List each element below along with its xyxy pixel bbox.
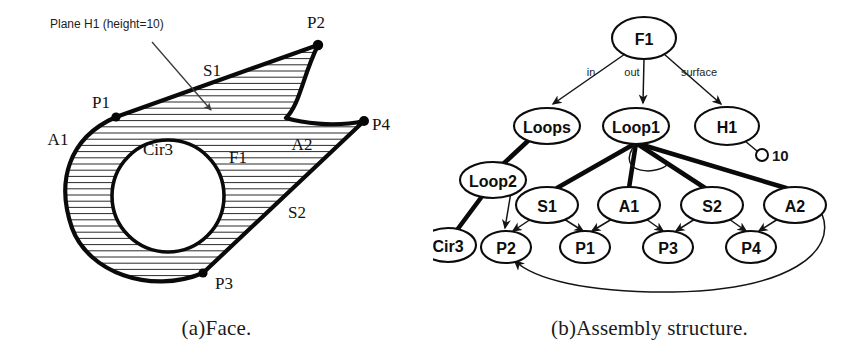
node-label: H1 bbox=[717, 119, 738, 136]
edge-loop1-s2 bbox=[636, 143, 705, 188]
assembly-node-f1[interactable]: F1 bbox=[612, 17, 676, 59]
assembly-node-h1[interactable]: H1 bbox=[695, 107, 759, 145]
vertex-p3 bbox=[198, 268, 207, 277]
assembly-node-a2[interactable]: A2 bbox=[764, 187, 826, 223]
edge-loops-loop2 bbox=[501, 139, 530, 166]
assembly-node-loop2[interactable]: Loop2 bbox=[460, 162, 526, 198]
vertex-p2 bbox=[313, 40, 323, 50]
assembly-node-cir3[interactable]: Cir3 bbox=[433, 228, 476, 262]
node-label: Loop1 bbox=[612, 119, 660, 136]
panel-face: Plane H1 (height=10) P1 P2 P3 P4 A1 A2 S… bbox=[0, 0, 433, 355]
vertex-p1 bbox=[111, 112, 120, 121]
node-label: Loops bbox=[523, 119, 571, 136]
node-label: P2 bbox=[496, 240, 516, 257]
edge-s2-p4 bbox=[729, 219, 746, 231]
assembly-node-p1[interactable]: P1 bbox=[560, 231, 610, 263]
label-a2: A2 bbox=[292, 135, 313, 154]
label-p3: P3 bbox=[215, 274, 233, 293]
label-a1: A1 bbox=[48, 130, 69, 149]
edge-f1-loops bbox=[553, 54, 625, 104]
edge-a2-p4 bbox=[759, 219, 778, 231]
node-label: A2 bbox=[785, 198, 806, 215]
edge-loop2-cir3 bbox=[457, 195, 483, 230]
node-label: A1 bbox=[619, 198, 640, 215]
edge-h1-height bbox=[745, 141, 757, 151]
node-label: P4 bbox=[741, 240, 761, 257]
assembly-node-loops[interactable]: Loops bbox=[514, 108, 580, 144]
assembly-node-s2[interactable]: S2 bbox=[681, 187, 743, 223]
vertex-p4 bbox=[359, 116, 369, 126]
label-p2: P2 bbox=[307, 13, 325, 32]
assembly-diagram: 10 in out surface F1LoopsLoop1H1Loop2S1A… bbox=[433, 0, 866, 320]
assembly-node-loop1[interactable]: Loop1 bbox=[603, 108, 669, 144]
node-label: S1 bbox=[537, 198, 557, 215]
edge-f1-h1 bbox=[664, 54, 721, 104]
caption-face: (a)Face. bbox=[0, 316, 433, 341]
edge-loop1-s1 bbox=[557, 143, 636, 188]
edge-s1-p2 bbox=[513, 219, 531, 231]
label-cir3: Cir3 bbox=[143, 140, 173, 159]
edge-s2-p3 bbox=[676, 219, 695, 231]
face-diagram: Plane H1 (height=10) P1 P2 P3 P4 A1 A2 S… bbox=[0, 0, 433, 320]
node-label: P1 bbox=[575, 240, 595, 257]
node-label: F1 bbox=[635, 31, 654, 48]
label-p1: P1 bbox=[92, 93, 110, 112]
assembly-node-a1[interactable]: A1 bbox=[598, 187, 660, 223]
edge-label-surface: surface bbox=[681, 66, 717, 78]
label-f1: F1 bbox=[229, 148, 247, 167]
node-label: S2 bbox=[702, 198, 722, 215]
edge-s1-p1 bbox=[564, 219, 583, 231]
height-value-circle bbox=[756, 149, 768, 161]
assembly-node-p4[interactable]: P4 bbox=[726, 231, 776, 263]
node-label: Cir3 bbox=[433, 238, 464, 255]
label-p4: P4 bbox=[372, 115, 390, 134]
node-label: P3 bbox=[658, 240, 678, 257]
panel-assembly: 10 in out surface F1LoopsLoop1H1Loop2S1A… bbox=[433, 0, 866, 355]
plane-annotation: Plane H1 (height=10) bbox=[50, 17, 164, 31]
node-label: Loop2 bbox=[469, 173, 517, 190]
label-s1: S1 bbox=[203, 61, 221, 80]
height-value-label: 10 bbox=[772, 147, 789, 164]
edge-label-out: out bbox=[624, 66, 639, 78]
edge-a1-p1 bbox=[592, 219, 612, 231]
assembly-node-p2[interactable]: P2 bbox=[481, 231, 531, 263]
edges-from-f1 bbox=[553, 54, 721, 104]
caption-assembly: (b)Assembly structure. bbox=[433, 316, 866, 341]
assembly-node-p3[interactable]: P3 bbox=[643, 231, 693, 263]
figure-root: Plane H1 (height=10) P1 P2 P3 P4 A1 A2 S… bbox=[0, 0, 866, 355]
label-s2: S2 bbox=[288, 203, 306, 222]
edge-a1-p3 bbox=[646, 219, 663, 231]
assembly-node-s1[interactable]: S1 bbox=[516, 187, 578, 223]
edges-from-loop1 bbox=[557, 143, 786, 188]
edge-f1-loop1 bbox=[643, 59, 644, 103]
edge-label-in: in bbox=[587, 66, 596, 78]
